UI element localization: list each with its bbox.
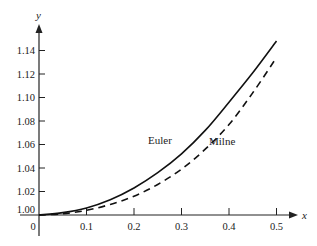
euler-curve <box>39 41 277 215</box>
x-tick-label: 0.4 <box>222 221 236 232</box>
y-ticks: 1.001.021.041.061.081.101.121.14 <box>17 45 45 215</box>
y-tick-label: 1.02 <box>17 186 35 197</box>
euler-label: Euler <box>148 134 172 146</box>
x-tick-label: 0.3 <box>175 221 188 232</box>
y-tick-label: 1.00 <box>17 204 35 215</box>
y-tick-label: 1.04 <box>17 163 36 174</box>
y-axis-label: y <box>35 9 41 21</box>
x-axis-arrow-icon <box>289 212 298 219</box>
y-tick-label: 1.08 <box>17 116 35 127</box>
x-tick-label: 0.5 <box>270 221 283 232</box>
y-axis-arrow-icon <box>36 24 43 33</box>
x-tick-label: 0.1 <box>80 221 93 232</box>
chart: y x 1.001.021.041.061.081.101.121.14 00.… <box>0 0 317 246</box>
x-tick-label: 0 <box>30 221 35 232</box>
milne-label: Milne <box>209 135 235 147</box>
y-tick-label: 1.06 <box>17 139 35 150</box>
y-tick-label: 1.14 <box>17 45 36 56</box>
y-tick-label: 1.12 <box>17 69 35 80</box>
y-tick-label: 1.10 <box>17 92 35 103</box>
x-tick-label: 0.2 <box>127 221 140 232</box>
x-axis-label: x <box>301 209 307 221</box>
